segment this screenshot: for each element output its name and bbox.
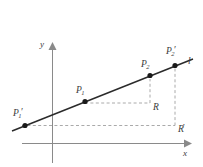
label-p2: P2 — [141, 60, 150, 70]
point-p2-prime — [172, 63, 177, 68]
label-p2-prime: P2′ — [166, 47, 177, 57]
x-axis — [22, 140, 192, 148]
label-p1-prime-mark: ′ — [21, 107, 23, 117]
label-p2-sub: 2 — [146, 63, 149, 70]
label-r-prime: R′ — [178, 125, 186, 135]
line-l — [12, 59, 193, 131]
point-p2 — [147, 73, 152, 78]
label-r-base: R — [153, 102, 159, 112]
point-p1-prime — [22, 123, 27, 128]
label-p2-prime-mark: ′ — [174, 45, 176, 55]
label-r-prime-mark: ′ — [182, 123, 184, 133]
y-axis — [49, 42, 57, 163]
diagram-canvas — [0, 0, 203, 167]
geometry-figure: y x l P1′ P1 P2 P2′ R R′ — [0, 0, 203, 167]
y-axis-arrowhead — [49, 42, 57, 50]
x-axis-label: x — [183, 149, 187, 158]
label-p1-prime: P1′ — [13, 109, 24, 119]
line-label-l: l — [188, 57, 191, 67]
dashed-triangle-inner — [85, 79, 150, 103]
x-axis-arrowhead — [184, 140, 192, 148]
point-p1 — [82, 99, 87, 104]
y-axis-label: y — [40, 40, 44, 49]
label-p1-sub: 1 — [81, 89, 84, 96]
label-p1: P1 — [76, 86, 85, 96]
label-r: R — [153, 103, 159, 113]
